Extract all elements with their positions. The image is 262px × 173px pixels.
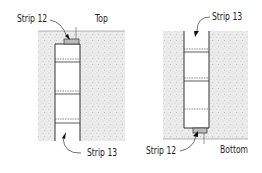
pipe-body [184,31,209,128]
label-bottom: Bottom [220,145,248,155]
strip-12-plate [64,39,79,44]
strip-12-plate [193,128,207,133]
pipe-body [55,44,80,141]
label-strip-12-left: Strip 12 [17,14,47,24]
leader-strip-13 [197,17,210,31]
label-strip-13-right: Strip 13 [212,12,242,22]
ground-soil [38,31,125,141]
label-strip-12-right: Strip 12 [146,146,176,156]
right-panel [163,17,248,151]
label-strip-13-left: Strip 13 [87,148,117,158]
label-top: Top [95,14,108,24]
left-panel [38,20,125,153]
